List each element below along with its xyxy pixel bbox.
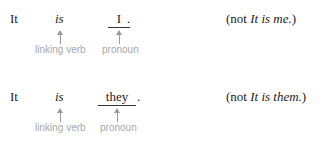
example-row-1: It is I . (not It is me.) linking verb p… [0,6,327,66]
arrow-up-icon [60,111,61,122]
arrow-up-icon [119,33,120,44]
end-punctuation: . [127,12,130,26]
arrow-up-icon [60,33,61,44]
verb-label: linking verb [35,122,86,134]
subject-word: It [10,90,18,104]
example-row-2: It is they . (not It is them.) linking v… [0,84,327,144]
pronoun-label: pronoun [102,44,139,56]
correction-note: (not It is them.) [226,90,306,104]
verb-word: is [55,12,64,26]
verb-label: linking verb [35,44,86,56]
underline [108,27,130,28]
end-punctuation: . [137,90,140,104]
correction-note: (not It is me.) [226,12,296,26]
pronoun-label: pronoun [100,122,137,134]
complement-word: I [117,11,121,26]
complement-blank: they [98,90,136,104]
arrow-up-icon [117,111,118,122]
incorrect-example: It is me. [250,11,292,26]
incorrect-example: It is them. [250,89,302,104]
underline [98,105,136,106]
subject-word: It [10,12,18,26]
verb-word: is [55,90,64,104]
complement-word: they [106,89,128,104]
